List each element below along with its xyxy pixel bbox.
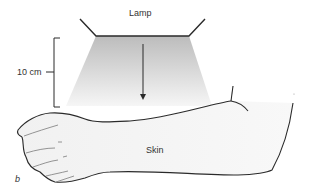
diagram-canvas — [0, 0, 311, 192]
lamp-icon — [80, 19, 205, 36]
skin-label: Skin — [146, 145, 164, 155]
distance-label: 10 cm — [17, 67, 42, 77]
lamp-label: Lamp — [129, 8, 152, 18]
panel-label: b — [15, 174, 20, 184]
distance-bracket — [46, 38, 60, 107]
light-beam — [66, 36, 212, 106]
